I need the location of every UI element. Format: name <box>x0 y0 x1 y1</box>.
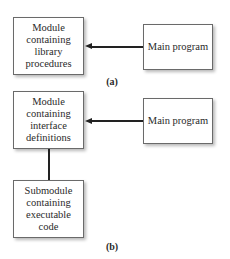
main-program-label: Main program <box>148 115 208 127</box>
module-box-text: Module containing library procedures <box>25 22 71 70</box>
submodule-box-text: Submodule containing executable code <box>25 185 73 233</box>
main-program-box-b: Main program <box>143 98 213 144</box>
text-line: procedures <box>25 58 71 70</box>
text-line: Module <box>26 96 71 108</box>
text-line: containing <box>25 197 73 209</box>
text-line: containing <box>26 108 71 120</box>
submodule-executable-code-box: Submodule containing executable code <box>13 180 84 238</box>
caption-a: (a) <box>97 76 127 87</box>
text-line: Module <box>25 22 71 34</box>
connector-module-to-submodule <box>48 149 50 180</box>
arrow-main-to-module-a <box>90 46 143 48</box>
module-interface-definitions-box: Module containing interface definitions <box>13 91 84 149</box>
text-line: containing <box>25 34 71 46</box>
text-line: executable <box>25 209 73 221</box>
module-library-procedures-box: Module containing library procedures <box>13 17 84 75</box>
text-line: library <box>25 46 71 58</box>
text-line: code <box>25 221 73 233</box>
text-line: Submodule <box>25 185 73 197</box>
caption-b: (b) <box>97 241 127 252</box>
module-box-text: Module containing interface definitions <box>26 96 71 144</box>
main-program-box-a: Main program <box>143 24 213 70</box>
text-line: definitions <box>26 132 71 144</box>
text-line: interface <box>26 120 71 132</box>
arrow-main-to-module-b <box>90 120 143 122</box>
main-program-label: Main program <box>148 41 208 53</box>
